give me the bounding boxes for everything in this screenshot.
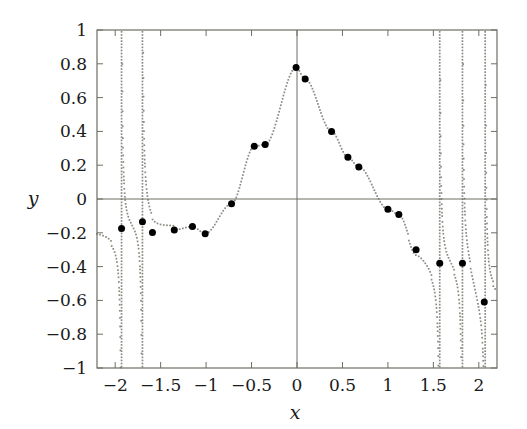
y-tick-label: 0 (76, 189, 87, 209)
data-point (344, 154, 351, 161)
x-tick-label: −0.5 (231, 375, 272, 395)
x-tick-label: 1.5 (420, 375, 447, 395)
y-tick-label: −0.2 (46, 223, 87, 243)
x-tick-label: 2 (473, 375, 484, 395)
data-point (413, 246, 420, 253)
data-point (293, 64, 300, 71)
x-tick-label: −1 (194, 375, 219, 395)
data-point (355, 163, 362, 170)
data-point (202, 230, 209, 237)
data-point (118, 225, 125, 232)
y-tick-label: 0.6 (60, 88, 87, 108)
x-tick-label: −1.5 (140, 375, 181, 395)
x-tick-label: 0 (292, 375, 303, 395)
y-tick-label: 1 (76, 20, 87, 40)
data-point (459, 260, 466, 267)
data-point (251, 143, 258, 150)
chart-figure: −2−1.5−1−0.500.511.52 −1−0.8−0.6−0.4−0.2… (0, 0, 527, 429)
y-tick-label: 0.2 (60, 155, 87, 175)
x-tick-label: 1 (382, 375, 393, 395)
y-tick-label: 0.4 (60, 121, 87, 141)
data-point (481, 299, 488, 306)
data-point (149, 229, 156, 236)
data-point (328, 128, 335, 135)
y-tick-label: −0.4 (46, 257, 87, 277)
data-point (436, 260, 443, 267)
y-tick-label: −0.6 (46, 290, 87, 310)
x-tick-label: −2 (103, 375, 128, 395)
data-point (302, 76, 309, 83)
x-tick-label: 0.5 (329, 375, 356, 395)
data-point (189, 223, 196, 230)
data-point (139, 218, 146, 225)
x-axis-tick-labels: −2−1.5−1−0.500.511.52 (103, 375, 485, 395)
data-point (262, 141, 269, 148)
data-point (171, 226, 178, 233)
x-axis-title: x (290, 401, 301, 423)
data-point (228, 200, 235, 207)
data-point (384, 206, 391, 213)
y-tick-label: −1 (62, 358, 87, 378)
y-axis-title: y (27, 187, 39, 209)
scatter-plot-svg: −2−1.5−1−0.500.511.52 −1−0.8−0.6−0.4−0.2… (0, 0, 527, 429)
data-point (395, 211, 402, 218)
y-tick-label: −0.8 (46, 324, 87, 344)
y-tick-label: 0.8 (60, 54, 87, 74)
